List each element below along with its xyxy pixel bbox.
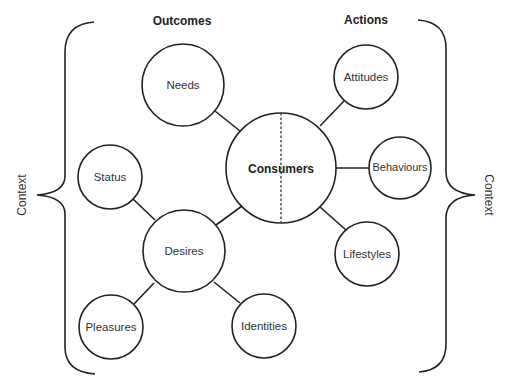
node-status-label: Status [94,171,127,183]
connector-needs-consumers [215,111,240,131]
header-outcomes: Outcomes [153,14,212,28]
header-actions: Actions [344,13,388,27]
node-consumers-label: Consumers [248,162,314,176]
connector-attitudes-consumers [320,101,344,126]
node-lifestyles-label: Lifestyles [343,248,391,260]
node-pleasures-label: Pleasures [85,321,136,333]
diagram-svg: Outcomes Actions Context Context Consume… [0,0,508,389]
connector-desires-consumers [216,206,242,225]
context-label-right: Context [482,174,496,216]
node-desires-label: Desires [165,245,204,257]
connector-identities-desires [214,282,240,303]
connector-status-desires [133,199,155,220]
connector-lifestyles-consumers [320,207,346,230]
right-brace [418,20,475,372]
node-identities-label: Identities [241,320,287,332]
node-attitudes-label: Attitudes [344,71,389,83]
context-label-left: Context [15,174,29,216]
connector-pleasures-desires [134,283,154,304]
consumer-diagram: Outcomes Actions Context Context Consume… [0,0,508,389]
node-needs-label: Needs [166,79,199,91]
node-behaviours-label: Behaviours [372,161,428,173]
